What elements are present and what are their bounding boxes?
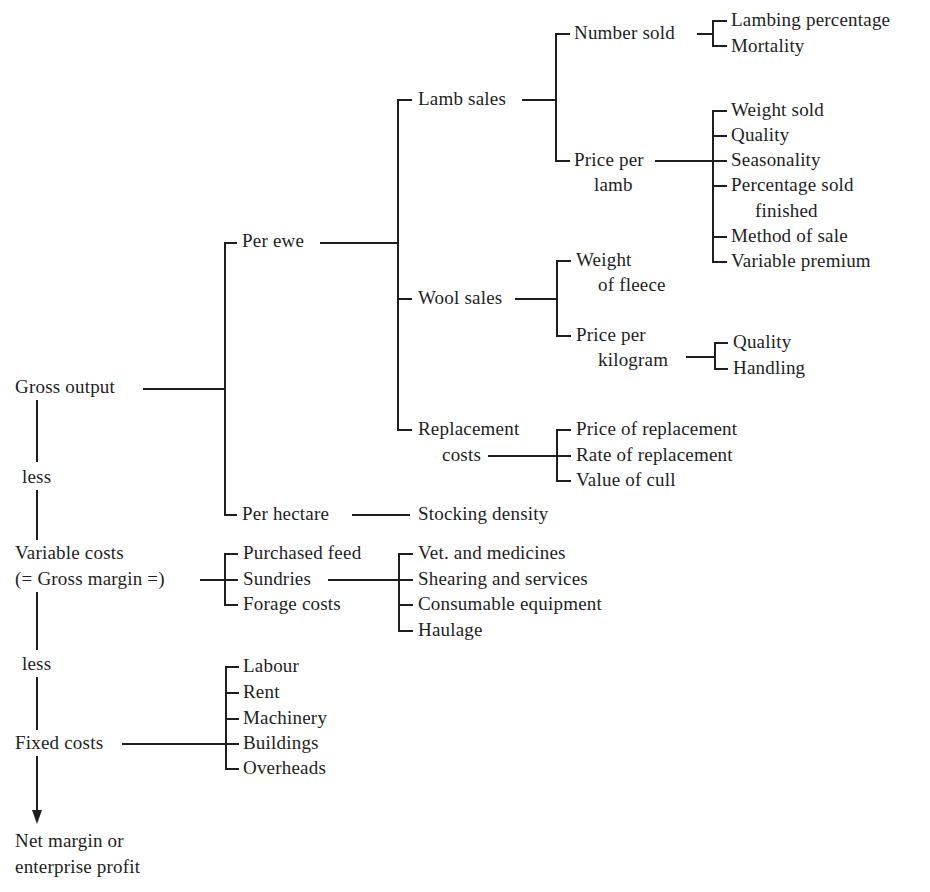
factor-lambing-percentage: Lambing percentage — [731, 7, 890, 33]
node-wool-sales: Wool sales — [418, 285, 502, 311]
connector — [556, 455, 571, 457]
connector — [398, 604, 413, 606]
factor-price-of-replacement: Price of replacement — [576, 416, 737, 442]
connector — [224, 579, 238, 581]
connector — [122, 743, 225, 745]
spine-connector — [36, 592, 38, 650]
item-labour: Labour — [243, 653, 299, 679]
factor-method-of-sale: Method of sale — [731, 223, 848, 249]
factor-variable-premium: Variable premium — [731, 248, 871, 274]
connector — [352, 514, 410, 516]
factor-weight-sold: Weight sold — [731, 97, 824, 123]
connector — [556, 480, 571, 482]
connector — [556, 429, 571, 431]
spine-connector — [36, 677, 38, 730]
node-number-sold: Number sold — [574, 20, 675, 46]
connector — [712, 135, 727, 137]
node-per-ewe: Per ewe — [242, 228, 304, 254]
connector — [225, 718, 239, 720]
connector — [224, 242, 237, 244]
bracket — [712, 20, 714, 46]
connector — [555, 160, 570, 162]
item-overheads: Overheads — [243, 755, 326, 781]
connector — [398, 553, 413, 555]
connector — [712, 185, 727, 187]
connector — [225, 768, 239, 770]
connector — [200, 579, 224, 581]
sheep-enterprise-profit-tree: Gross output less Variable costs (= Gros… — [0, 0, 930, 892]
connector — [515, 298, 556, 300]
connector — [224, 514, 237, 516]
node-fixed-costs: Fixed costs — [15, 730, 103, 756]
node-net-margin: Net margin or — [15, 828, 124, 854]
connector — [712, 160, 727, 162]
factor-value-of-cull: Value of cull — [576, 467, 676, 493]
connector — [712, 45, 727, 47]
node-stocking-density: Stocking density — [418, 501, 548, 527]
item-consumable-equipment: Consumable equipment — [418, 591, 602, 617]
node-price-per-lamb-line2: lamb — [594, 172, 633, 198]
factor-wool-quality: Quality — [733, 329, 791, 355]
connector — [655, 160, 712, 162]
connector — [712, 110, 727, 112]
connector — [225, 692, 239, 694]
node-weight-of-fleece-line2: of fleece — [598, 272, 666, 298]
node-price-per-lamb: Price per — [574, 147, 644, 173]
item-rent: Rent — [243, 679, 280, 705]
connector — [488, 455, 556, 457]
connector — [397, 429, 412, 431]
connector — [328, 579, 398, 581]
connector — [697, 33, 712, 35]
node-per-hectare: Per hectare — [242, 501, 329, 527]
connector — [714, 342, 728, 344]
connector — [686, 356, 714, 358]
connector — [320, 242, 398, 244]
node-price-per-kilogram: Price per — [576, 322, 646, 348]
connector — [712, 236, 727, 238]
connector — [224, 553, 238, 555]
node-gross-output: Gross output — [15, 374, 115, 400]
bracket — [397, 99, 399, 430]
arrow-down-icon — [32, 810, 42, 824]
factor-quality: Quality — [731, 122, 789, 148]
item-haulage: Haulage — [418, 617, 483, 643]
connector — [522, 99, 555, 101]
spine-connector — [36, 756, 38, 812]
connector — [398, 630, 413, 632]
spine-connector — [36, 490, 38, 540]
connector — [712, 261, 727, 263]
connector — [398, 579, 413, 581]
connector — [225, 743, 239, 745]
bracket — [555, 33, 557, 161]
factor-mortality: Mortality — [731, 33, 805, 59]
connector — [143, 388, 224, 390]
node-lamb-sales: Lamb sales — [418, 86, 506, 112]
spine-connector — [36, 400, 38, 462]
bracket — [714, 342, 716, 369]
connector — [556, 335, 571, 337]
item-vet-and-medicines: Vet. and medicines — [418, 540, 566, 566]
connector — [555, 33, 570, 35]
item-purchased-feed: Purchased feed — [243, 540, 361, 566]
node-replacement-costs: Replacement — [418, 416, 519, 442]
connector — [556, 260, 571, 262]
item-machinery: Machinery — [243, 705, 327, 731]
bracket — [224, 242, 226, 515]
connector — [397, 99, 412, 101]
node-price-per-kilogram-line2: kilogram — [598, 347, 668, 373]
item-buildings: Buildings — [243, 730, 319, 756]
factor-rate-of-replacement: Rate of replacement — [576, 442, 733, 468]
item-sundries: Sundries — [243, 566, 311, 592]
node-gross-margin: (= Gross margin =) — [15, 566, 165, 592]
label-less-2: less — [22, 651, 51, 677]
item-shearing-and-services: Shearing and services — [418, 566, 588, 592]
factor-percentage-sold-finished-line2: finished — [755, 198, 818, 224]
item-forage-costs: Forage costs — [243, 591, 341, 617]
factor-seasonality: Seasonality — [731, 147, 821, 173]
node-replacement-costs-line2: costs — [442, 442, 481, 468]
factor-handling: Handling — [733, 355, 805, 381]
label-less-1: less — [22, 464, 51, 490]
connector — [224, 604, 238, 606]
connector — [397, 298, 412, 300]
connector — [225, 666, 239, 668]
